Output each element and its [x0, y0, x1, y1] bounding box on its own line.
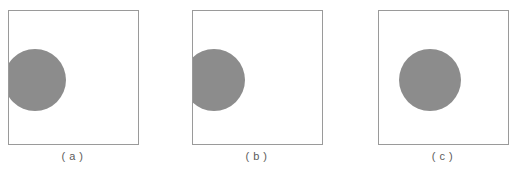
panel-b-caption: ( b )	[184, 150, 329, 162]
panel-b: ( b )	[184, 0, 356, 179]
panel-c-caption: ( c )	[370, 150, 515, 162]
panel-a: ( a )	[0, 0, 172, 179]
panel-b-frame	[192, 10, 323, 145]
panel-a-frame	[8, 10, 139, 145]
panel-b-disc	[192, 49, 245, 111]
panel-c: ( c )	[370, 0, 516, 179]
panel-a-caption: ( a )	[0, 150, 145, 162]
panel-c-frame	[378, 10, 509, 145]
panel-c-disc	[399, 49, 461, 111]
figure-three-panel-discs: ( a ) ( b ) ( c )	[0, 0, 516, 179]
panel-a-disc	[8, 49, 66, 111]
